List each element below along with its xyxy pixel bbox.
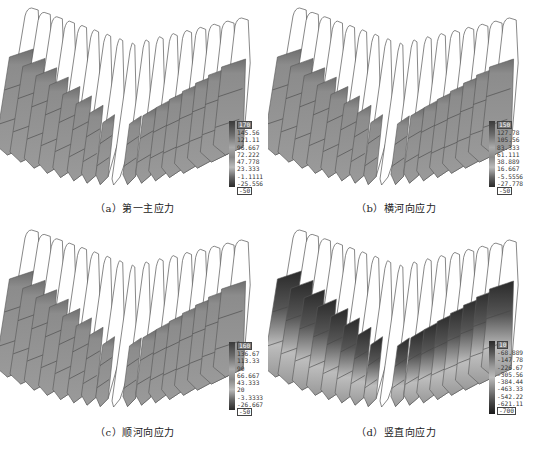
stress-contour-plot-c — [0, 222, 268, 417]
legend-value: -26.667 — [237, 401, 263, 408]
legend-value: 90 — [237, 365, 263, 372]
legend-value: 105.56 — [497, 136, 523, 143]
legend-value: 20 — [237, 386, 263, 393]
legend-colorbar-c — [229, 342, 235, 410]
legend-labels-a: 170 145.56 121.11 96.667 72.222 47.778 2… — [237, 121, 263, 195]
legend-min-d: -700 — [497, 407, 516, 415]
legend-value: -5.5556 — [497, 173, 523, 180]
legend-value: 145.56 — [237, 129, 263, 136]
caption-c: （c）顺河向应力 — [95, 424, 175, 439]
panel-a: 170 145.56 121.11 96.667 72.222 47.778 2… — [0, 0, 268, 224]
legend-value: 127.78 — [497, 129, 523, 136]
legend-colorbar-a — [229, 121, 235, 187]
legend-colorbar-d — [489, 341, 495, 414]
legend-value: -1.1111 — [237, 173, 263, 180]
legend-b: 150 127.78 105.56 83.333 61.111 38.889 1… — [489, 121, 531, 187]
legend-max-b: 150 — [497, 121, 512, 129]
panel-b: 150 127.78 105.56 83.333 61.111 38.889 1… — [268, 0, 536, 224]
legend-value: 113.33 — [237, 357, 263, 364]
panel-c: 160 136.67 113.33 90 66.667 43.333 20 -3… — [0, 222, 268, 446]
legend-value: -463.33 — [497, 385, 523, 392]
legend-value: 121.11 — [237, 136, 263, 143]
legend-max-c: 160 — [237, 342, 252, 350]
legend-max-d: 10 — [497, 341, 508, 349]
legend-value: -25.556 — [237, 180, 263, 187]
legend-min-a: -50 — [237, 187, 252, 195]
legend-value: 38.889 — [497, 158, 523, 165]
legend-max-a: 170 — [237, 121, 252, 129]
legend-labels-b: 150 127.78 105.56 83.333 61.111 38.889 1… — [497, 121, 523, 195]
legend-value: -621.11 — [497, 400, 523, 407]
caption-d: （d）竖直向应力 — [356, 424, 436, 439]
legend-value: -3.3333 — [237, 394, 263, 401]
legend-value: 23.333 — [237, 165, 263, 172]
panel-d: 10 -68.889 -147.78 -226.67 -305.56 -384.… — [268, 222, 536, 446]
legend-value: 96.667 — [237, 144, 263, 151]
legend-value: -27.778 — [497, 180, 523, 187]
legend-value: -147.78 — [497, 356, 523, 363]
legend-value: -68.889 — [497, 349, 523, 356]
legend-value: 43.333 — [237, 379, 263, 386]
legend-colorbar-b — [489, 121, 495, 187]
legend-value: 66.667 — [237, 372, 263, 379]
stress-contour-plot-a — [0, 0, 268, 195]
legend-value: -384.44 — [497, 378, 523, 385]
legend-a: 170 145.56 121.11 96.667 72.222 47.778 2… — [229, 121, 271, 187]
legend-value: 16.667 — [497, 165, 523, 172]
legend-value: -305.56 — [497, 371, 523, 378]
legend-c: 160 136.67 113.33 90 66.667 43.333 20 -3… — [229, 342, 271, 410]
legend-value: 61.111 — [497, 151, 523, 158]
legend-value: -226.67 — [497, 364, 523, 371]
legend-min-c: -50 — [237, 408, 252, 416]
legend-d: 10 -68.889 -147.78 -226.67 -305.56 -384.… — [489, 341, 531, 414]
legend-value: -542.22 — [497, 393, 523, 400]
caption-b: （b）横河向应力 — [356, 200, 436, 215]
legend-value: 47.778 — [237, 158, 263, 165]
legend-value: 136.67 — [237, 350, 263, 357]
legend-min-b: -50 — [497, 187, 512, 195]
caption-a: （a）第一主应力 — [95, 200, 175, 215]
legend-value: 72.222 — [237, 151, 263, 158]
legend-labels-c: 160 136.67 113.33 90 66.667 43.333 20 -3… — [237, 342, 263, 416]
legend-labels-d: 10 -68.889 -147.78 -226.67 -305.56 -384.… — [497, 341, 523, 415]
legend-value: 83.333 — [497, 144, 523, 151]
